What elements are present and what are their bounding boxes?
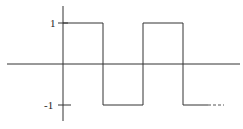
square-wave-chart: 1 -1 xyxy=(0,0,243,129)
chart-canvas: 1 -1 xyxy=(0,0,243,129)
y-tick-label-neg1: -1 xyxy=(44,99,53,111)
y-tick-label-1: 1 xyxy=(50,17,56,29)
